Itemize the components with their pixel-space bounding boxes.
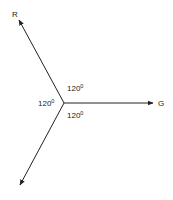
angle-label-bottom: 1200 <box>67 110 83 120</box>
label-g: G <box>158 99 164 108</box>
vector-b-arrow <box>20 103 64 185</box>
label-r: R <box>12 10 18 19</box>
phasor-diagram: R G 1200 1200 1200 <box>0 0 173 200</box>
angle-label-left: 1200 <box>38 98 54 108</box>
angle-label-top: 1200 <box>67 83 83 93</box>
vector-r-arrow <box>19 20 64 103</box>
